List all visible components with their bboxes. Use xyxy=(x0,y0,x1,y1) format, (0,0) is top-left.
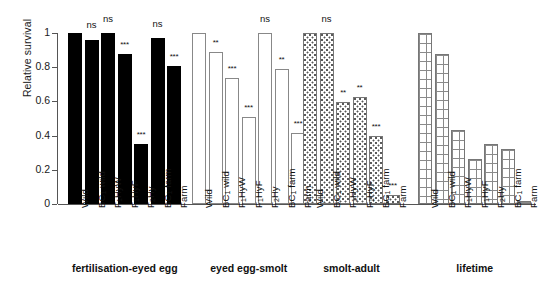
y-axis-tick-label: 0.8 xyxy=(4,60,50,72)
significance-stars-label: *** xyxy=(137,131,145,139)
significance-ns-label: ns xyxy=(260,13,270,23)
significance-stars-label: ** xyxy=(213,38,219,46)
significance-ns-label: ns xyxy=(152,18,162,28)
group-title: fertilisation-eyed egg xyxy=(72,262,178,274)
bar xyxy=(192,33,206,204)
group-title: smolt-adult xyxy=(323,262,380,274)
category-label: Farm xyxy=(178,185,189,208)
significance-ns-label: ns xyxy=(86,20,96,30)
bar xyxy=(258,33,272,204)
category-label: F1HyW xyxy=(347,177,358,208)
category-label: Farm xyxy=(397,185,408,208)
category-label: BC1 wild xyxy=(446,171,457,208)
significance-stars-label: *** xyxy=(228,65,236,73)
category-label: F1HyW xyxy=(462,177,473,208)
category-label: BC1 farm xyxy=(512,168,523,208)
category-label: F1HyF xyxy=(364,180,375,208)
y-axis-tick-label: 1 xyxy=(4,26,50,38)
category-label: F1HyF xyxy=(253,180,264,208)
category-label: F2Hy xyxy=(145,186,156,208)
y-axis-tick-label: 0.6 xyxy=(4,94,50,106)
category-label: F1HyF xyxy=(129,180,140,208)
category-label: F1HyF xyxy=(479,180,490,208)
category-label: Wild xyxy=(79,189,90,208)
significance-ns-label: ns xyxy=(321,13,331,23)
significance-stars-label: *** xyxy=(120,41,128,49)
significance-stars-label: ** xyxy=(340,89,346,97)
category-label: BC1 farm xyxy=(380,168,391,208)
bar xyxy=(418,33,432,204)
category-label: F2Hy xyxy=(269,186,280,208)
significance-stars-label: *** xyxy=(170,53,178,61)
category-label: Farm xyxy=(528,185,539,208)
y-axis-tick-label: 0 xyxy=(4,197,50,209)
bar xyxy=(303,33,317,204)
category-label: F2Hy xyxy=(495,186,506,208)
group-title: lifetime xyxy=(456,262,493,274)
group-title: eyed egg-smolt xyxy=(210,262,287,274)
significance-stars-label: ** xyxy=(279,56,285,64)
relative-survival-bar-chart: Relative survival 00.20.40.60.81 nsns***… xyxy=(0,0,540,285)
y-axis-tick-label: 0.2 xyxy=(4,163,50,175)
significance-stars-label: ** xyxy=(357,84,363,92)
category-label: Wild xyxy=(314,189,325,208)
significance-stars-label: *** xyxy=(372,122,380,130)
significance-stars-label: *** xyxy=(244,103,252,111)
category-label: BC1 wild xyxy=(331,171,342,208)
significance-ns-label: ns xyxy=(103,13,113,23)
category-label: BC1 farm xyxy=(162,168,173,208)
y-axis-tick-label: 0.4 xyxy=(4,129,50,141)
significance-stars-label: *** xyxy=(294,120,302,128)
category-label: Farm xyxy=(302,185,313,208)
category-label: F1HyW xyxy=(112,177,123,208)
category-label: BC1 farm xyxy=(286,168,297,208)
category-label: BC1 wild xyxy=(220,171,231,208)
y-axis-tick-mark xyxy=(52,204,57,205)
category-label: BC1 wild xyxy=(96,171,107,208)
category-label: F1HyW xyxy=(236,177,247,208)
category-label: Wild xyxy=(203,189,214,208)
category-label: Wild xyxy=(429,189,440,208)
bar xyxy=(68,33,82,204)
